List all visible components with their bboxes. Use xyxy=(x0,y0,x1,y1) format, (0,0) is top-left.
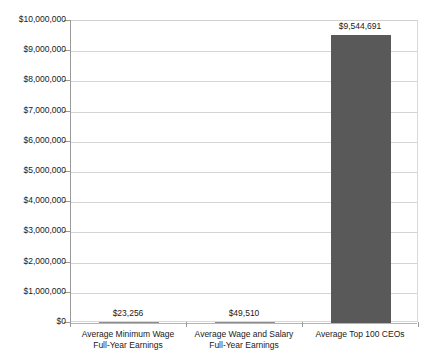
y-axis-tick-label: $0 xyxy=(4,317,66,326)
x-axis-tick xyxy=(186,322,187,327)
x-axis-tick xyxy=(302,322,303,327)
bar-value-label: $9,544,691 xyxy=(315,22,405,31)
x-axis-label-line: Full-Year Earnings xyxy=(70,340,186,351)
bar xyxy=(331,35,391,323)
y-axis-tick-label: $6,000,000 xyxy=(4,136,66,145)
plot-area xyxy=(70,20,418,322)
y-axis-tick-label: $3,000,000 xyxy=(4,226,66,235)
y-axis-tick-label: $5,000,000 xyxy=(4,166,66,175)
y-axis-line xyxy=(70,20,71,323)
x-axis-label-line: Average Minimum Wage xyxy=(70,329,186,340)
y-axis-tick-label: $1,000,000 xyxy=(4,287,66,296)
y-axis-tick-label: $4,000,000 xyxy=(4,196,66,205)
y-axis-tick-label: $9,000,000 xyxy=(4,45,66,54)
bar-value-label: $49,510 xyxy=(199,309,289,318)
x-axis-category-label: Average Minimum WageFull-Year Earnings xyxy=(70,329,186,351)
y-axis-tick-label: $10,000,000 xyxy=(4,15,66,24)
x-axis-category-label: Average Wage and SalaryFull-Year Earning… xyxy=(186,329,302,351)
x-axis-label-line: Full-Year Earnings xyxy=(186,340,302,351)
axis-baseline xyxy=(71,323,417,324)
y-axis-tick-label: $8,000,000 xyxy=(4,75,66,84)
x-axis-tick xyxy=(418,322,419,327)
x-axis-label-line: Average Wage and Salary xyxy=(186,329,302,340)
x-axis-tick xyxy=(70,322,71,327)
y-axis-labels: $10,000,000$9,000,000$8,000,000$7,000,00… xyxy=(0,0,66,360)
bar-chart: $10,000,000$9,000,000$8,000,000$7,000,00… xyxy=(0,0,430,360)
y-axis-tick-label: $2,000,000 xyxy=(4,257,66,266)
bar xyxy=(215,322,275,324)
x-axis-category-label: Average Top 100 CEOs xyxy=(302,329,418,340)
bar xyxy=(99,322,159,324)
x-axis-label-line: Average Top 100 CEOs xyxy=(302,329,418,340)
y-axis-tick-label: $7,000,000 xyxy=(4,106,66,115)
bar-value-label: $23,256 xyxy=(83,309,173,318)
